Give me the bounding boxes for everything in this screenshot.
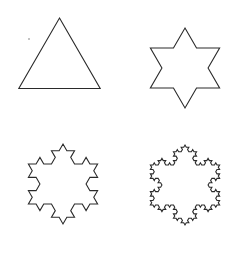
koch-iteration-2-snowflake	[28, 144, 97, 224]
koch-iteration-3-snowflake	[150, 145, 219, 225]
koch-iteration-1-star	[150, 28, 219, 108]
koch-iteration-0-triangle	[19, 18, 100, 89]
koch-snowflake-figure	[0, 0, 247, 256]
stray-dot-mark	[28, 38, 30, 40]
